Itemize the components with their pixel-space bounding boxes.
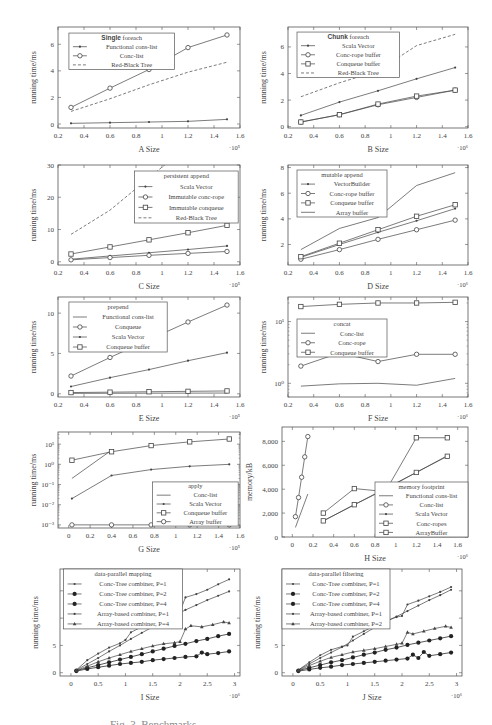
x-tick-label: 0.4: [309, 269, 318, 277]
legend-entry: Conqueue buffer: [330, 199, 375, 206]
legend: persistent appendScala VectorImmutable c…: [134, 171, 238, 223]
x-tick-label: 0.6: [350, 541, 359, 549]
legend-entry: Conc-list: [120, 52, 144, 59]
x-tick-label: 1: [389, 401, 393, 409]
x-tick-label: 1: [160, 132, 164, 140]
y-tick-label: 6: [51, 41, 55, 49]
x-tick-label: 0.2: [309, 541, 318, 549]
legend-entry: Conqueue buffer: [330, 349, 375, 356]
legend-entry: ArrayBuffer: [415, 529, 448, 536]
legend-title: Single foreach: [101, 34, 143, 42]
chart-A: 0.20.40.60.811.21.41.60246A Size·10⁵runn…: [29, 27, 245, 154]
legend-entry: Immutable conc-rope: [168, 193, 224, 200]
legend-entry: Scala Vector: [180, 183, 213, 190]
legend-title: data-parallel filtering: [308, 570, 364, 577]
y-tick-label: 0: [53, 669, 57, 677]
y-tick-label: 5: [53, 642, 57, 650]
x-tick-label: 0.2: [54, 132, 63, 140]
x-tick-label: 1.2: [184, 132, 193, 140]
legend-entry: Conc-Tree combiner, P=1: [312, 580, 379, 587]
y-tick-label: 4: [281, 70, 285, 78]
legend-entry: Scala Vector: [112, 333, 145, 340]
legend-entry: Conc-rope buffer: [336, 51, 382, 58]
x-tick-label: 0.6: [335, 401, 344, 409]
x-tick-label: 0.5: [316, 680, 325, 688]
chart-I: 00.511.522.5305I Size·10⁶running time/ms…: [31, 569, 240, 702]
y-tick-label: 4: [281, 215, 285, 223]
legend: memory footprintFunctional cons-listConc…: [375, 482, 468, 537]
y-tick-label: 20: [47, 194, 55, 202]
x-tick-label: 1.4: [438, 269, 447, 277]
x-tick-label: 0.6: [335, 132, 344, 140]
legend-entry: Array buffer: [336, 209, 369, 216]
chart-B: 0.20.40.60.811.21.41.60246B Size·10⁶runn…: [259, 27, 473, 154]
x-tick-label: 2: [178, 680, 182, 688]
y-tick-label: 0: [51, 121, 55, 129]
x-exponent: ·10⁶: [229, 692, 240, 699]
legend-title: apply: [188, 482, 203, 489]
legend-entry: Conc-Tree combiner, P=1: [99, 580, 166, 587]
x-exponent: ·10⁶: [457, 281, 468, 288]
x-tick-label: 3: [455, 680, 459, 688]
x-tick-label: 0.6: [335, 269, 344, 277]
legend-entry: Functional cons-list: [106, 43, 158, 50]
y-axis-label: running time/ms: [29, 189, 38, 242]
legend-entry: Array-based combiner, P=1: [97, 610, 169, 617]
legend-entry: Array buffer: [189, 518, 222, 525]
legend: Chunk foreachScala VectorConc-rope buffe…: [297, 32, 400, 77]
y-axis-label: running time/ms: [29, 321, 38, 374]
x-tick-label: 0.6: [106, 401, 115, 409]
legend-entry: Red-Black Tree: [176, 214, 217, 221]
x-tick-label: 0: [67, 532, 71, 540]
legend: prependFunctional cons-listConqueueScala…: [69, 302, 167, 352]
x-tick-label: 1.5: [370, 680, 379, 688]
x-tick-label: 1.4: [433, 541, 442, 549]
y-tick-label: 8,000: [262, 438, 278, 446]
y-tick-label: 0: [275, 534, 279, 542]
y-tick-label: 6: [281, 190, 285, 198]
x-tick-label: 0.6: [106, 269, 115, 277]
y-tick-label: 10⁻³: [41, 521, 54, 529]
x-tick-label: 1: [174, 532, 178, 540]
y-tick-label: 2: [51, 94, 55, 102]
x-tick-label: 0.6: [129, 532, 138, 540]
x-tick-label: 1.2: [412, 269, 421, 277]
x-tick-label: 0.4: [309, 132, 318, 140]
y-axis-label: running time/ms: [253, 596, 262, 649]
x-tick-label: 1.4: [438, 401, 447, 409]
x-tick-label: 1.2: [184, 269, 193, 277]
x-tick-label: 1: [389, 132, 393, 140]
x-axis-label: F Size: [368, 414, 389, 423]
x-tick-label: 0.8: [361, 401, 370, 409]
x-tick-label: 1.2: [412, 132, 421, 140]
x-tick-label: 1.6: [236, 532, 245, 540]
x-tick-label: 0.4: [80, 401, 89, 409]
x-tick-label: 1.4: [210, 401, 219, 409]
y-tick-label: 10¹: [275, 318, 284, 326]
y-tick-label: 8: [281, 164, 285, 172]
x-tick-label: 0.4: [80, 132, 89, 140]
y-axis-label: running time/ms: [259, 321, 268, 374]
x-tick-label: 0.2: [284, 401, 293, 409]
x-tick-label: 1.6: [464, 132, 473, 140]
chart-C: 0.20.40.60.811.21.41.60102030C Size·10⁵r…: [29, 146, 245, 291]
legend-entry: Scala Vector: [415, 510, 448, 517]
x-tick-label: 2.5: [425, 680, 434, 688]
x-axis-label: E Size: [139, 414, 160, 423]
y-tick-label: 10⁰: [274, 380, 284, 388]
x-tick-label: 1: [160, 401, 164, 409]
legend-entry: Array-based combiner, P=1: [310, 610, 382, 617]
x-exponent: ·10⁵: [229, 144, 240, 151]
x-tick-label: 0: [291, 541, 295, 549]
y-axis-label: running time/ms: [29, 51, 38, 104]
legend-entry: Immutable conqueue: [169, 204, 224, 211]
x-exponent: ·10⁶: [451, 692, 462, 699]
x-tick-label: 0.4: [107, 532, 116, 540]
legend-entry: Conc-list: [420, 501, 444, 508]
legend-entry: Scala Vector: [342, 42, 375, 49]
x-axis-label: C Size: [138, 282, 160, 291]
x-tick-label: 0.8: [132, 269, 141, 277]
legend-title: Chunk foreach: [328, 33, 370, 40]
x-tick-label: 0.8: [361, 132, 370, 140]
y-axis-label: running time/ms: [31, 596, 40, 649]
